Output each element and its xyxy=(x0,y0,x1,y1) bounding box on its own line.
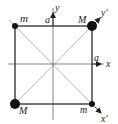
label-x-axis: x xyxy=(105,58,111,69)
y-prime-arrow xyxy=(95,18,100,23)
atom-top-right-large xyxy=(87,21,97,31)
label-a-x: a xyxy=(94,52,99,63)
atom-bottom-right-small xyxy=(89,101,95,107)
label-y-prime: y′ xyxy=(100,7,108,18)
lattice-diagram: m M M m y a x a y′ x′ xyxy=(0,0,118,124)
label-atom-bottom-right: m xyxy=(80,104,87,115)
atom-top-left-small xyxy=(12,23,18,29)
label-a-y: a xyxy=(45,14,50,25)
label-y-axis: y xyxy=(54,2,60,13)
label-atom-bottom-left: M xyxy=(18,105,28,116)
label-atom-top-right: M xyxy=(77,14,87,25)
label-atom-top-left: m xyxy=(20,12,28,24)
label-x-prime: x′ xyxy=(100,113,108,124)
